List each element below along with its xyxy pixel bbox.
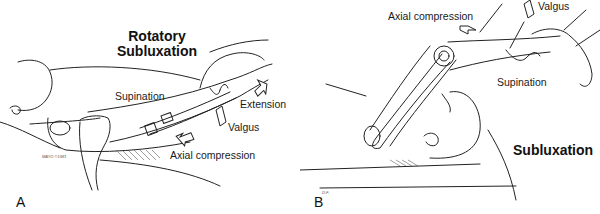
child-head-outline: [430, 92, 480, 159]
surface-shading: [390, 160, 418, 166]
table-shading: [116, 150, 160, 160]
upper-arm-outline-top: [370, 46, 430, 130]
child-body-lower: [48, 118, 190, 152]
pointer-line-axial: [480, 4, 502, 32]
examiner-arm: [564, 10, 600, 46]
panel-a-title-line2: Subluxation: [112, 44, 202, 59]
forearm-outline-top: [448, 36, 560, 42]
examiner-arm-upper: [210, 40, 268, 52]
table-edge: [100, 160, 220, 186]
table-line: [320, 186, 516, 188]
artist-signature: MAYO ©1981: [42, 154, 66, 159]
valgus-arrow-icon: [524, 0, 534, 18]
label-supination: Supination: [497, 76, 547, 88]
axial-compression-arrow-icon: [460, 26, 476, 34]
label-valgus: Valgus: [538, 0, 569, 12]
child-hair-outline: [442, 94, 450, 112]
label-extension: Extension: [240, 98, 286, 110]
elbow-joint: [434, 46, 454, 66]
child-shoulder-outline: [50, 67, 200, 80]
label-axial-compression: Axial compression: [388, 10, 473, 22]
label-supination: Supination: [115, 90, 165, 102]
examiner-arm-lower: [80, 122, 93, 190]
panel-letter-a: A: [16, 194, 25, 210]
label-valgus: Valgus: [228, 121, 259, 133]
table-left: [0, 122, 60, 148]
humerus-bone: [373, 54, 450, 149]
table-surface: [300, 164, 480, 170]
panel-b-title: Subluxation: [513, 143, 600, 158]
pillow-edge: [488, 130, 516, 200]
forearm-outline-bottom: [450, 52, 550, 70]
bone-end: [50, 121, 70, 135]
pointer-line-left: [326, 84, 366, 96]
panel-letter-b: B: [314, 194, 323, 210]
pointer-line-valgus: [510, 22, 524, 48]
panel-b-illustration: [300, 0, 600, 214]
panel-a-title-line1: Rotatory: [112, 29, 202, 44]
panel-a-rotatory-subluxation: Rotatory Subluxation Supination Extensio…: [0, 0, 300, 214]
examiner-hand-elbow: [80, 116, 110, 190]
upper-arm-outline-bottom: [390, 60, 456, 146]
panel-a-title: Rotatory Subluxation: [112, 29, 202, 59]
child-ear-icon: [424, 133, 438, 146]
label-axial-compression: Axial compression: [170, 149, 255, 161]
valgus-arrow-icon: [216, 106, 226, 126]
child-torso-outline: [30, 118, 100, 124]
child-head-outline: [18, 60, 52, 110]
panel-b-subluxation: Axial compression Valgus Supination Subl…: [300, 0, 600, 214]
